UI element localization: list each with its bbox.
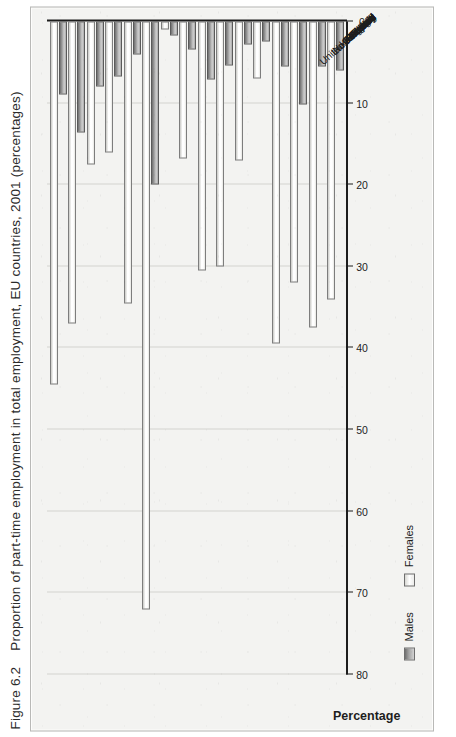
axis-tick-60 — [346, 510, 353, 511]
bar-females-portugal — [105, 21, 113, 152]
bar-males-sweden — [77, 21, 85, 132]
bar-group — [68, 21, 87, 674]
rotated-figure-stage: Figure 6.2Proportion of part-time employ… — [0, 0, 456, 737]
axis-tick-label-50: 50 — [356, 423, 368, 435]
bar-group — [179, 21, 198, 674]
bar-group — [234, 21, 253, 674]
bar-group — [253, 21, 272, 674]
bar-males-finland — [96, 21, 104, 86]
bar-females-denmark — [290, 21, 298, 282]
bar-males-italy — [188, 21, 196, 49]
bar-females-sweden — [68, 21, 76, 323]
legend-swatch-males — [404, 647, 415, 660]
axis-tick-70 — [346, 591, 353, 592]
bar-group — [123, 21, 142, 674]
bar-group — [327, 21, 346, 674]
axis-tick-label-60: 60 — [356, 505, 368, 517]
bar-males-belgium — [318, 21, 326, 66]
bar-males-spain — [244, 21, 252, 44]
bar-females-germany — [272, 21, 280, 343]
bar-males-ireland — [207, 21, 215, 79]
bar-group — [49, 21, 68, 674]
bar-females-austria — [124, 21, 132, 303]
bar-females-ireland — [198, 21, 206, 270]
axis-tick-30 — [346, 265, 353, 266]
bar-group — [308, 21, 327, 674]
value-axis: 01020304050607080 — [346, 21, 347, 674]
axis-tick-label-40: 40 — [356, 342, 368, 354]
bar-males-france — [225, 21, 233, 65]
bar-females-spain — [235, 21, 243, 160]
bar-males-luxembourg — [170, 21, 178, 35]
axis-tick-0 — [346, 20, 353, 21]
bar-group — [216, 21, 235, 674]
legend-swatch-females — [404, 573, 415, 586]
bar-group — [142, 21, 161, 674]
figure-wrapper: Figure 6.2Proportion of part-time employ… — [0, 0, 456, 737]
bar-females-italy — [179, 21, 187, 158]
bar-males-germany — [281, 21, 289, 66]
plot-area — [47, 21, 347, 674]
figure-number: Figure 6.2 — [8, 666, 23, 729]
bar-group — [197, 21, 216, 674]
bar-females-luxembourg — [161, 21, 169, 29]
axis-tick-20 — [346, 183, 353, 184]
bar-females-united-kingdom — [50, 21, 58, 384]
axis-tick-label-30: 30 — [356, 260, 368, 272]
bar-females-belgium — [309, 21, 317, 327]
bar-males-eu-15 — [336, 21, 344, 70]
bar-males-netherlands — [151, 21, 159, 184]
bar-females-eu-15 — [327, 21, 335, 299]
axis-tick-label-0: 0 — [359, 15, 365, 27]
figure-caption: Figure 6.2Proportion of part-time employ… — [8, 29, 23, 729]
value-axis-title: Percentage — [333, 708, 400, 722]
axis-tick-label-80: 80 — [356, 668, 368, 680]
bar-females-finland — [87, 21, 95, 164]
legend-label-females: Females — [403, 524, 415, 566]
axis-tick-label-70: 70 — [356, 586, 368, 598]
bar-series-container — [47, 21, 347, 674]
legend-label-males: Males — [403, 612, 415, 641]
bar-females-france — [216, 21, 224, 266]
bar-males-austria — [133, 21, 141, 54]
bar-males-united-kingdom — [59, 21, 67, 94]
axis-tick-50 — [346, 428, 353, 429]
bar-group — [86, 21, 105, 674]
bar-group — [290, 21, 309, 674]
chart-plate: Percentage United KingdomSwedenFinlandPo… — [30, 6, 434, 731]
axis-tick-40 — [346, 347, 353, 348]
axis-tick-80 — [346, 673, 353, 674]
bar-females-greece — [253, 21, 261, 78]
figure-caption-text: Proportion of part-time employment in to… — [8, 91, 23, 650]
chart-legend: MalesFemales — [403, 524, 415, 660]
bar-group — [271, 21, 290, 674]
bar-females-netherlands — [142, 21, 150, 609]
legend-item-males: Males — [403, 612, 415, 660]
figure-page: Figure 6.2Proportion of part-time employ… — [0, 0, 456, 737]
bar-males-denmark — [299, 21, 307, 104]
bar-males-greece — [262, 21, 270, 41]
bar-group — [105, 21, 124, 674]
legend-item-females: Females — [403, 524, 415, 585]
axis-tick-10 — [346, 102, 353, 103]
bar-males-portugal — [114, 21, 122, 76]
axis-tick-label-20: 20 — [356, 178, 368, 190]
axis-tick-label-10: 10 — [356, 97, 368, 109]
bar-group — [160, 21, 179, 674]
